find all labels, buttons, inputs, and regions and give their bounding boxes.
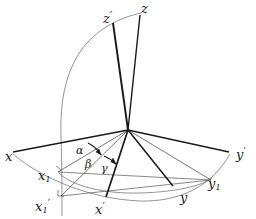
tick-mark-x1-prime [58, 190, 64, 196]
axis-label-x-prime: x′ [95, 201, 105, 216]
angle-label-beta: β [85, 159, 91, 170]
axis-label-y1: y1 [208, 177, 221, 192]
axis-line-x-prime [106, 130, 128, 197]
axis-label-x1-prime: x1′ [35, 198, 50, 215]
axis-label-y: y [180, 191, 187, 204]
axis-line-y1 [128, 130, 211, 180]
axis-connector-x1prime-y1 [61, 180, 211, 196]
axis-label-z: z [141, 2, 148, 15]
euler-angle-diagram: x x1 x1′ x′ y y1 y′ z z′ α β γ [0, 0, 256, 219]
axis-label-x: x [5, 150, 12, 163]
axis-line-x [13, 130, 128, 152]
axis-label-z-prime: z′ [103, 10, 112, 25]
axis-line-z [128, 15, 140, 130]
angle-label-alpha: α [76, 145, 83, 156]
axis-label-x1: x1 [38, 169, 51, 184]
axis-line-z-prime [113, 23, 128, 130]
angle-arrowhead-gamma [111, 158, 116, 164]
axis-label-y-prime: y′ [236, 146, 246, 161]
tick-mark-x1 [56, 166, 61, 170]
angle-label-gamma: γ [101, 163, 108, 174]
